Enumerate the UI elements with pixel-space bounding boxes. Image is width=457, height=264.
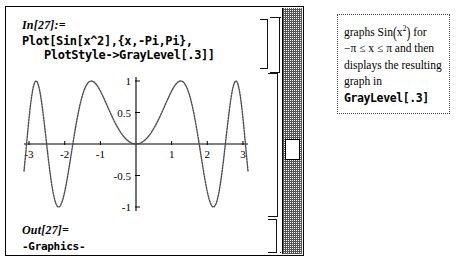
mathematica-notebook-window: In[27]:= Plot[Sin[x^2],{x,-Pi,Pi}, PlotS… — [5, 6, 304, 256]
input-cell-label: In[27]:= — [22, 18, 66, 33]
y-tick-label: 0.5 — [117, 107, 131, 119]
annotation-sin-function: Sin — [378, 26, 393, 38]
cell-bracket-input-inner[interactable] — [260, 19, 268, 69]
annotation-callout: graphs Sin(x2) for −π ≤ x ≤ π and then d… — [337, 14, 450, 114]
annotation-line-1: graphs Sin(x2) for — [344, 21, 444, 40]
cell-bracket-graphics[interactable] — [268, 73, 278, 217]
plot-svg: -3-2-112310.5-0.5-1 — [16, 67, 256, 217]
x-tick-label: 2 — [205, 148, 211, 160]
y-tick-label: 1 — [126, 75, 132, 87]
cell-bracket-output-inner[interactable] — [268, 219, 277, 253]
annotation-line-4: graph in — [344, 73, 444, 90]
x-tick-label: 1 — [169, 148, 175, 160]
plot-graphic: -3-2-112310.5-0.5-1 — [16, 67, 256, 217]
cell-bracket-input-outer[interactable] — [270, 17, 280, 73]
notebook-content-area: In[27]:= Plot[Sin[x^2],{x,-Pi,Pi}, PlotS… — [6, 7, 281, 255]
cell-bracket-group[interactable] — [280, 17, 281, 253]
output-cell-text: -Graphics- — [22, 240, 85, 253]
annotation-line-1-suffix: for — [410, 26, 426, 38]
vertical-scrollbar[interactable] — [282, 8, 302, 254]
output-cell-label: Out[27]= — [22, 223, 69, 238]
screenshot-root: In[27]:= Plot[Sin[x^2],{x,-Pi,Pi}, PlotS… — [0, 0, 457, 264]
annotation-code-graylevel: GrayLevel[.3] — [344, 90, 444, 106]
y-tick-label: -1 — [122, 201, 131, 213]
input-code-line-2[interactable]: PlotStyle->GrayLevel[.3]] — [44, 48, 215, 62]
annotation-line-1-prefix: graphs — [344, 26, 378, 38]
scrollbar-thumb[interactable] — [285, 139, 300, 160]
annotation-line-3: displays the resulting — [344, 57, 444, 74]
annotation-paren-open: ( — [393, 20, 397, 44]
x-tick-label: -2 — [60, 148, 69, 160]
annotation-paren-close: ) — [406, 20, 410, 44]
x-tick-label: -1 — [96, 148, 105, 160]
y-tick-label: -0.5 — [114, 170, 132, 182]
input-code-line-1[interactable]: Plot[Sin[x^2],{x,-Pi,Pi}, — [22, 34, 193, 48]
